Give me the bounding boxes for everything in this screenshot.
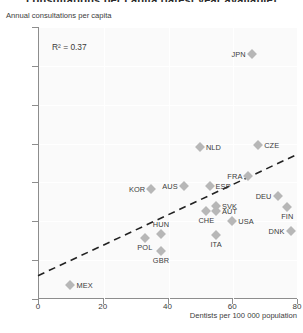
x-tick-mark xyxy=(103,299,104,304)
data-point-label: ITA xyxy=(210,240,221,249)
data-point-label: CHE xyxy=(198,216,214,225)
x-axis-title: Dentists per 100 000 population xyxy=(190,311,297,320)
data-point-label: DEU xyxy=(256,192,272,201)
y-tick-mark xyxy=(32,260,38,261)
x-tick-mark xyxy=(297,299,298,304)
data-point-label: AUS xyxy=(162,182,178,191)
x-tick-label: 80 xyxy=(277,302,303,311)
y-tick-mark xyxy=(32,27,38,28)
y-tick-mark xyxy=(32,105,38,106)
data-point-label: GBR xyxy=(153,256,169,265)
data-point-label: AUT xyxy=(222,207,237,216)
trendline-layer xyxy=(0,0,303,333)
y-tick-mark xyxy=(32,221,38,222)
data-point-label: KOR xyxy=(129,184,145,193)
x-tick-mark xyxy=(38,299,39,304)
data-point-label: JPN xyxy=(231,50,245,59)
data-point-label: FIN xyxy=(281,212,293,221)
data-point-label: USA xyxy=(238,217,254,226)
data-point-label: ESP xyxy=(216,182,231,191)
data-point-label: MEX xyxy=(76,281,92,290)
data-point-label: POL xyxy=(137,243,152,252)
data-point-label: CZE xyxy=(264,141,279,150)
y-tick-mark xyxy=(32,182,38,183)
y-tick-mark xyxy=(32,144,38,145)
data-point-label: FRA xyxy=(227,172,242,181)
scatter-chart-figure: consultations per capita (latest year av… xyxy=(0,0,303,333)
y-tick-mark xyxy=(32,66,38,67)
data-point-label: DNK xyxy=(269,226,285,235)
x-tick-mark xyxy=(168,299,169,304)
data-point-label: NLD xyxy=(206,143,221,152)
x-tick-mark xyxy=(232,299,233,304)
data-point-label: HUN xyxy=(153,220,169,229)
